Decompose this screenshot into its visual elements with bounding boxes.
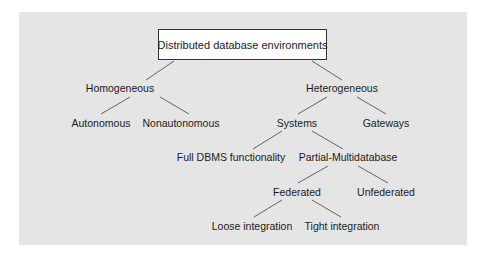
node-tight-integration: Tight integration xyxy=(305,221,380,232)
node-autonomous: Autonomous xyxy=(72,118,131,129)
edge-root-homogeneous xyxy=(146,61,174,80)
edge-root-heterogeneous xyxy=(312,61,342,80)
edge-heterogeneous-gateways xyxy=(357,97,386,114)
node-unfederated: Unfederated xyxy=(357,187,415,198)
edge-partial-unfederated xyxy=(358,166,388,183)
node-loose-integration: Loose integration xyxy=(212,221,293,232)
node-full-dbms-functionality: Full DBMS functionality xyxy=(177,152,286,163)
edge-federated-tight xyxy=(312,200,341,217)
edge-heterogeneous-systems xyxy=(298,97,327,114)
node-homogeneous: Homogeneous xyxy=(86,83,154,94)
edge-partial-federated xyxy=(298,166,328,183)
node-systems: Systems xyxy=(277,118,317,129)
edge-systems-fulldbms xyxy=(253,131,282,149)
edge-federated-loose xyxy=(254,200,282,217)
node-federated: Federated xyxy=(273,187,321,198)
edge-homogeneous-autonomous xyxy=(101,97,130,114)
node-nonautonomous: Nonautonomous xyxy=(142,118,219,129)
root-node-distributed-database-environments: Distributed database environments xyxy=(158,29,327,60)
edge-systems-partial xyxy=(312,131,343,149)
node-partial-multidatabase: Partial-Multidatabase xyxy=(299,152,398,163)
node-heterogeneous: Heterogeneous xyxy=(306,83,378,94)
node-gateways: Gateways xyxy=(363,118,410,129)
root-node-label: Distributed database environments xyxy=(158,39,328,51)
edge-homogeneous-nonautonomous xyxy=(160,97,189,114)
